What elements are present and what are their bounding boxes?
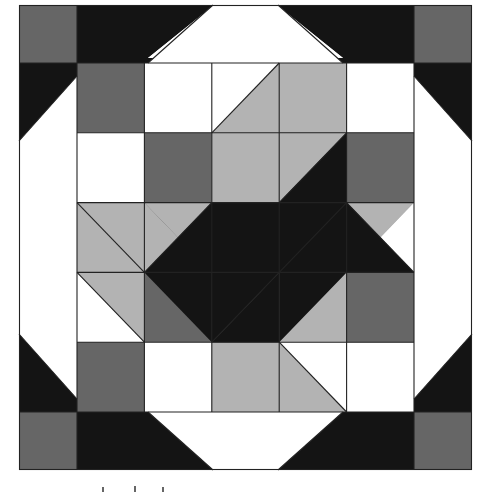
cell-r0c0-gray [77, 63, 144, 133]
cell-r4c1-white [144, 342, 211, 412]
cell-r1c1-gray [144, 133, 211, 203]
arm-top-tail [212, 133, 279, 203]
corner-square-top-right [414, 5, 472, 63]
cell-r0c4-white [347, 63, 414, 133]
corner-square-bottom-right [414, 412, 472, 470]
cell-r4c0-gray [77, 342, 144, 412]
corner-square-bottom-left [19, 412, 77, 470]
corner-square-top-left [19, 5, 77, 63]
quilt-block [19, 5, 472, 470]
cell-r0c1-white [144, 63, 211, 133]
arm-bottom-band [212, 342, 279, 412]
cell-r1c0-white [77, 133, 144, 203]
arm-top-band [279, 63, 346, 133]
inner-block [77, 63, 414, 412]
cell-r1c4-gray [347, 133, 414, 203]
quilt-svg [0, 0, 483, 494]
quilt-block-figure [0, 0, 483, 494]
cell-r3c4-gray-restore [347, 272, 414, 342]
cell-r4c4-white [347, 342, 414, 412]
figure-page [0, 0, 483, 494]
